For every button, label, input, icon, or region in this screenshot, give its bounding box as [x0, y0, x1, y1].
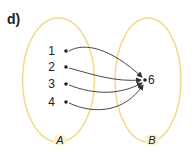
point-dot — [64, 65, 68, 69]
domain-element-1: 1 — [48, 44, 67, 58]
arrow-1-to-6 — [69, 47, 142, 77]
svg-text:2: 2 — [48, 60, 55, 74]
svg-text:A: A — [55, 134, 63, 146]
point-dot — [143, 78, 147, 82]
svg-text:4: 4 — [48, 95, 55, 109]
codomain-element-6: 6 — [143, 73, 155, 87]
svg-text:3: 3 — [48, 77, 55, 91]
point-dot — [64, 49, 68, 53]
svg-text:6: 6 — [148, 73, 155, 87]
svg-text:1: 1 — [48, 44, 55, 58]
point-dot — [64, 100, 68, 104]
domain-element-3: 3 — [48, 77, 67, 91]
set-a-ellipse — [23, 18, 95, 142]
domain-element-2: 2 — [48, 60, 67, 74]
set-b-label: B — [145, 134, 159, 146]
svg-text:B: B — [148, 134, 155, 146]
arrow-3-to-6 — [69, 83, 142, 92]
point-dot — [64, 82, 68, 86]
domain-element-4: 4 — [48, 95, 67, 109]
set-a-label: A — [53, 134, 67, 146]
arrow-2-to-6 — [69, 68, 141, 80]
mapping-diagram: 1 2 3 4 6 A B — [0, 0, 196, 153]
